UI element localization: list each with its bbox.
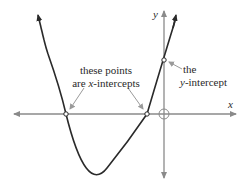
y-intercept-label-line1: the xyxy=(183,63,197,75)
x-intercepts-label-line1: these points xyxy=(80,64,132,76)
x-intercepts-label-line2: are x-intercepts xyxy=(72,77,140,89)
x-axis-label: x xyxy=(227,98,233,110)
y-axis-label: y xyxy=(152,8,158,20)
pointer-arrow-y-intercept xyxy=(169,62,182,69)
parabola-diagram: y x these points are x-intercepts the y-… xyxy=(0,0,250,188)
parabola-left-arrow xyxy=(38,15,44,40)
x-intercept-left-point xyxy=(64,112,68,116)
y-intercept-point xyxy=(162,58,166,62)
parabola-curve xyxy=(48,21,175,175)
y-intercept-label-line2: y-intercept xyxy=(179,76,227,88)
pointer-arrow-right xyxy=(128,88,143,109)
x-intercept-right-point xyxy=(145,112,149,116)
pointer-arrow-left xyxy=(70,88,84,109)
